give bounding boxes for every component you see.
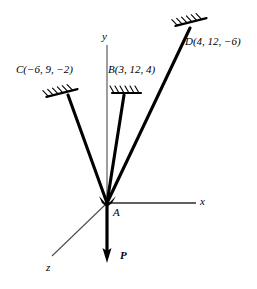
label-point-c: C(−6, 9, −2) bbox=[16, 64, 73, 75]
support-b bbox=[110, 86, 141, 93]
z-axis-line bbox=[52, 203, 107, 256]
label-axis-z: z bbox=[46, 262, 50, 273]
label-axis-x: x bbox=[200, 196, 205, 207]
force-p-vector bbox=[103, 203, 112, 263]
statics-diagram: C(−6, 9, −2) B(3, 12, 4) D(4, 12, −6) y … bbox=[0, 0, 257, 289]
label-origin-a: A bbox=[113, 207, 120, 218]
cables-group bbox=[68, 28, 190, 203]
support-d bbox=[172, 11, 207, 26]
cable-ac bbox=[68, 95, 107, 203]
label-point-b: B(3, 12, 4) bbox=[108, 64, 155, 75]
label-axis-y: y bbox=[102, 31, 107, 42]
label-force-p: P bbox=[120, 250, 127, 261]
label-point-d: D(4, 12, −6) bbox=[185, 36, 241, 47]
axes-group bbox=[52, 45, 196, 256]
support-c bbox=[43, 82, 78, 97]
